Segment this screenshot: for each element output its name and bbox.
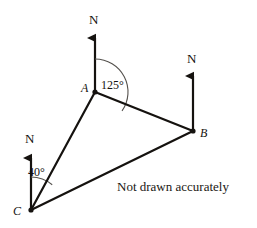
- vertex-dot-a: [92, 89, 97, 94]
- vertex-dot-c: [28, 207, 33, 212]
- vertex-label-a: A: [81, 82, 88, 94]
- segment-bc: [31, 131, 193, 210]
- not-drawn-accurately-note: Not drawn accurately: [117, 180, 229, 193]
- segment-ab: [95, 92, 193, 131]
- north-label-c: N: [25, 132, 34, 145]
- angle-label-125: 125°: [101, 79, 124, 91]
- bearings-diagram: N N N A B C 125° 40° Not drawn accuratel…: [0, 0, 257, 228]
- segment-ac: [31, 92, 95, 210]
- vertex-label-c: C: [13, 205, 21, 217]
- north-label-b: N: [187, 52, 196, 65]
- vertex-dots: [28, 89, 195, 212]
- north-label-a: N: [89, 13, 98, 26]
- angle-label-40: 40°: [28, 166, 45, 178]
- vertex-label-b: B: [200, 127, 207, 139]
- vertex-dot-b: [190, 128, 195, 133]
